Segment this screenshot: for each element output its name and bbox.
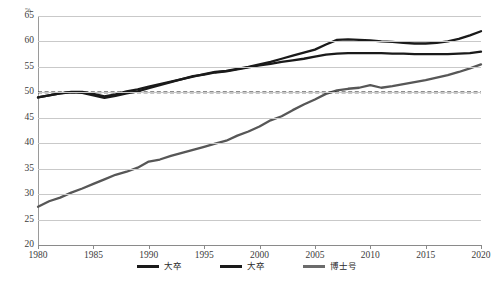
x-axis-tick-mark xyxy=(93,245,94,249)
y-axis-tick-labels: 65605550454035302520 xyxy=(0,0,34,282)
legend-label: 大卒 xyxy=(247,262,265,271)
y-axis-tick-label: 55 xyxy=(8,62,34,72)
legend-swatch-icon xyxy=(137,265,159,268)
series-line-3 xyxy=(38,64,481,206)
legend-item-1[interactable]: 大卒 xyxy=(137,262,182,271)
x-axis-tick-mark xyxy=(204,245,205,249)
x-axis-tick-label: 2005 xyxy=(305,250,324,260)
gridline xyxy=(38,118,481,119)
x-axis-tick-mark xyxy=(260,245,261,249)
series-line-2 xyxy=(38,52,481,98)
y-axis-tick-label: 60 xyxy=(8,37,34,47)
y-axis-tick-label: 20 xyxy=(8,240,34,250)
x-axis-tick-label: 1995 xyxy=(195,250,214,260)
gridline xyxy=(38,92,481,93)
x-axis-tick-mark xyxy=(426,245,427,249)
y-axis-tick-label: 65 xyxy=(8,11,34,21)
legend-item-2[interactable]: 大卒 xyxy=(220,262,265,271)
legend-label: 大卒 xyxy=(164,262,182,271)
legend-swatch-icon xyxy=(303,265,325,268)
gridline xyxy=(38,67,481,68)
legend-item-3[interactable]: 博士号 xyxy=(303,262,357,271)
x-axis-tick-mark xyxy=(370,245,371,249)
x-axis-tick-label: 1980 xyxy=(29,250,48,260)
series-container xyxy=(38,16,481,245)
x-axis-tick-label: 2000 xyxy=(250,250,269,260)
y-axis-tick-label: 50 xyxy=(8,88,34,98)
y-axis-tick-label: 45 xyxy=(8,113,34,123)
y-axis-tick-label: 40 xyxy=(8,138,34,148)
legend-label: 博士号 xyxy=(330,262,357,271)
chart-legend: 大卒大卒博士号 xyxy=(0,262,493,271)
x-axis-tick-label: 2015 xyxy=(416,250,435,260)
gridline xyxy=(38,220,481,221)
line-chart: % 65605550454035302520 19801985199019952… xyxy=(0,0,493,282)
x-axis-tick-mark xyxy=(149,245,150,249)
gridline xyxy=(38,169,481,170)
gridline xyxy=(38,41,481,42)
x-axis-tick-label: 2010 xyxy=(361,250,380,260)
plot-area xyxy=(38,16,481,245)
x-axis-tick-label: 1990 xyxy=(139,250,158,260)
x-axis-tick-mark xyxy=(315,245,316,249)
y-axis-tick-label: 35 xyxy=(8,164,34,174)
gridline xyxy=(38,16,481,17)
x-axis-tick-label: 1985 xyxy=(84,250,103,260)
gridline xyxy=(38,143,481,144)
y-axis-tick-label: 25 xyxy=(8,215,34,225)
y-axis-tick-label: 30 xyxy=(8,189,34,199)
legend-swatch-icon xyxy=(220,265,242,268)
x-axis-tick-mark xyxy=(38,245,39,249)
x-axis-tick-mark xyxy=(481,245,482,249)
x-axis-tick-label: 2020 xyxy=(472,250,491,260)
gridline xyxy=(38,194,481,195)
